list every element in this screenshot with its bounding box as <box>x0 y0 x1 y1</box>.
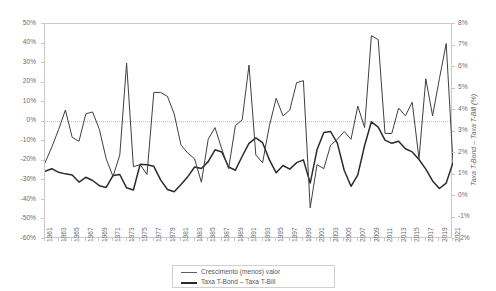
y-axis-left-tick <box>41 101 44 102</box>
x-axis-tick <box>398 238 399 241</box>
x-axis-tick <box>119 238 120 241</box>
y-axis-right-tick <box>452 152 455 153</box>
x-axis-tick <box>391 238 392 241</box>
y-axis-right-tick <box>452 174 455 175</box>
y-axis-left-tick-label: 0% <box>6 117 36 124</box>
legend-label-taxa-tbond-tbill: Taxa T-Bond – Taxa T-Bill <box>201 279 275 286</box>
y-axis-right-tick <box>452 23 455 24</box>
y-axis-left-tick-label: 10% <box>6 98 36 105</box>
x-axis-tick <box>248 238 249 241</box>
y-axis-left-tick-label: -40% <box>6 196 36 203</box>
x-axis-tick <box>228 238 229 241</box>
x-axis-tick <box>146 238 147 241</box>
chart-legend: Crescimento (menos) valor Taxa T-Bond – … <box>172 265 335 288</box>
x-axis-tick <box>282 238 283 241</box>
y-axis-left-tick-label: 20% <box>6 78 36 85</box>
y-axis-left-tick-label: 30% <box>6 59 36 66</box>
y-axis-left-tick-label: 40% <box>6 39 36 46</box>
x-axis-tick <box>187 238 188 241</box>
y-axis-right-tick <box>452 45 455 46</box>
plot-area <box>44 23 452 238</box>
x-axis-tick <box>330 238 331 241</box>
x-axis-tick <box>404 238 405 241</box>
x-axis-tick <box>51 238 52 241</box>
x-axis-tick <box>241 238 242 241</box>
y-axis-right-tick-label: 8% <box>458 20 488 27</box>
x-axis-tick <box>214 238 215 241</box>
x-axis-tick <box>445 238 446 241</box>
x-axis-tick <box>418 238 419 241</box>
x-axis-tick <box>262 238 263 241</box>
x-axis-tick <box>44 238 45 241</box>
x-axis-tick <box>302 238 303 241</box>
legend-item-crescimento: Crescimento (menos) valor <box>181 268 334 277</box>
x-axis-tick <box>275 238 276 241</box>
x-axis-tick <box>78 238 79 241</box>
x-axis-tick <box>98 238 99 241</box>
x-axis-tick <box>323 238 324 241</box>
y-axis-right-tick <box>452 131 455 132</box>
x-axis-tick <box>85 238 86 241</box>
x-axis-tick <box>309 238 310 241</box>
x-axis-tick <box>452 238 453 241</box>
x-axis-tick <box>384 238 385 241</box>
x-axis-tick <box>316 238 317 241</box>
y-axis-right-title: Taxa T-Bond – Taxa T-Bill (%) <box>470 60 477 220</box>
x-axis-tick <box>377 238 378 241</box>
y-axis-left-tick <box>41 23 44 24</box>
x-axis-tick <box>221 238 222 241</box>
y-axis-right-tick <box>452 195 455 196</box>
x-axis-tick <box>357 238 358 241</box>
x-axis-tick <box>411 238 412 241</box>
y-axis-left-tick-label: 50% <box>6 20 36 27</box>
x-axis-tick <box>364 238 365 241</box>
y-axis-right-tick <box>452 109 455 110</box>
x-axis-tick <box>71 238 72 241</box>
x-axis-tick <box>153 238 154 241</box>
legend-label-crescimento: Crescimento (menos) valor <box>201 269 280 276</box>
x-axis-tick <box>207 238 208 241</box>
x-axis-tick <box>58 238 59 241</box>
legend-item-taxa-tbond-tbill: Taxa T-Bond – Taxa T-Bill <box>181 278 334 287</box>
legend-swatch-taxa-tbond-tbill <box>181 282 197 284</box>
y-axis-left-tick-label: -60% <box>6 235 36 242</box>
x-axis-tick <box>234 238 235 241</box>
x-axis-tick <box>132 238 133 241</box>
x-axis-tick <box>126 238 127 241</box>
x-axis-tick <box>432 238 433 241</box>
x-axis-tick <box>200 238 201 241</box>
x-axis-tick <box>92 238 93 241</box>
y-axis-left-tick <box>41 160 44 161</box>
x-axis-tick <box>173 238 174 241</box>
y-axis-left-tick <box>41 121 44 122</box>
x-axis-tick <box>112 238 113 241</box>
y-axis-left-tick-label: -20% <box>6 156 36 163</box>
x-axis-tick <box>336 238 337 241</box>
y-axis-left-tick <box>41 140 44 141</box>
y-axis-left-tick-label: -10% <box>6 137 36 144</box>
plot-svg <box>45 24 453 239</box>
x-axis-tick <box>194 238 195 241</box>
x-axis-tick <box>343 238 344 241</box>
x-axis-tick <box>105 238 106 241</box>
legend-swatch-crescimento <box>181 272 197 273</box>
y-axis-left-tick <box>41 62 44 63</box>
x-axis-tick <box>160 238 161 241</box>
x-axis-tick <box>64 238 65 241</box>
x-axis-tick <box>350 238 351 241</box>
y-axis-left-tick-label: -50% <box>6 215 36 222</box>
x-axis-tick <box>255 238 256 241</box>
y-axis-left-tick-label: -30% <box>6 176 36 183</box>
y-axis-left-tick <box>41 199 44 200</box>
y-axis-left-tick <box>41 179 44 180</box>
x-axis-tick <box>268 238 269 241</box>
x-axis-tick <box>289 238 290 241</box>
x-axis-tick <box>425 238 426 241</box>
x-axis-tick-label: 2021 <box>455 227 462 242</box>
y-axis-right-tick <box>452 217 455 218</box>
x-axis-tick <box>180 238 181 241</box>
x-axis-tick <box>139 238 140 241</box>
y-axis-right-tick <box>452 66 455 67</box>
y-axis-left-tick <box>41 82 44 83</box>
y-axis-left-tick <box>41 218 44 219</box>
